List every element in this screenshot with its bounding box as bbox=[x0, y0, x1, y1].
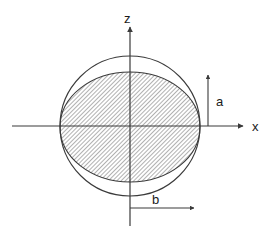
x-axis-label: x bbox=[252, 119, 259, 134]
dimension-a-label: a bbox=[216, 94, 224, 109]
geometry-diagram: x z a b bbox=[0, 0, 269, 234]
dimension-b-label: b bbox=[152, 192, 159, 207]
z-axis-label: z bbox=[124, 11, 131, 26]
figure-container: x z a b bbox=[0, 0, 269, 234]
